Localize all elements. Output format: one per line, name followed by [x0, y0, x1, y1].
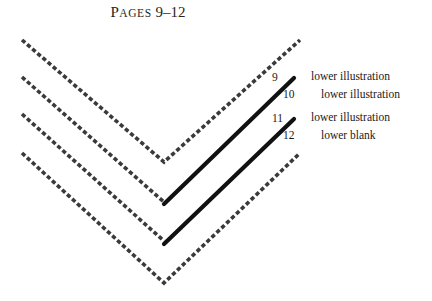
- outer-fold-top-dashed-path: [22, 40, 300, 162]
- outer-fold-bottom-dashed-path: [22, 153, 300, 283]
- page-label-12: lower blank: [321, 129, 376, 141]
- page-label-9: lower illustration: [311, 70, 390, 82]
- fold-page-9-10-dashed-path: [22, 77, 164, 202]
- gathering-diagram-figure: PAGES 9–12 9 10 11 12 lower illustration…: [0, 0, 432, 301]
- page-number-9: 9: [272, 71, 278, 83]
- folio-schematic-drawing: [0, 0, 432, 301]
- page-number-10: 10: [283, 88, 295, 100]
- page-number-11: 11: [272, 112, 283, 124]
- page-label-11: lower illustration: [311, 111, 390, 123]
- page-number-12: 12: [283, 129, 295, 141]
- fold-page-11-12-dashed-path: [22, 114, 164, 241]
- leaf-9-10-solid-path: [164, 78, 294, 204]
- leaf-11-12-solid-path: [164, 119, 294, 244]
- page-label-10: lower illustration: [321, 88, 400, 100]
